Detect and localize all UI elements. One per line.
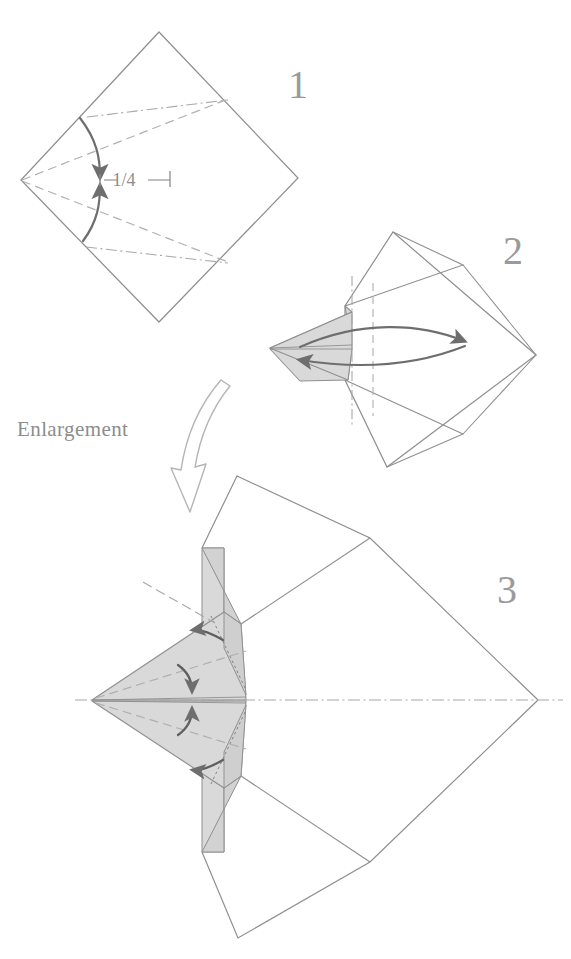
step-1-number: 1 xyxy=(288,62,308,107)
origami-diagram-canvas: 1/4 1 2 Enlargement xyxy=(0,0,571,959)
enlargement-arrow xyxy=(171,380,230,512)
step3-body-upper xyxy=(202,476,538,700)
step-2-group: 2 xyxy=(270,228,536,467)
step-1-group: 1/4 1 xyxy=(21,32,308,322)
step-2-number: 2 xyxy=(503,228,523,273)
enlargement-callout: Enlargement xyxy=(17,380,230,512)
step3-point-upper xyxy=(92,612,246,700)
measure-quarter-label: 1/4 xyxy=(112,170,135,190)
step3-body-lower xyxy=(202,700,538,938)
step-3-group: 3 xyxy=(75,476,563,938)
origami-diagram-page: 1/4 1 2 Enlargement xyxy=(0,0,571,959)
enlargement-label: Enlargement xyxy=(17,417,128,441)
step-3-number: 3 xyxy=(497,567,517,612)
step3-point-lower xyxy=(92,701,246,788)
step1-paper-outline xyxy=(21,32,298,322)
